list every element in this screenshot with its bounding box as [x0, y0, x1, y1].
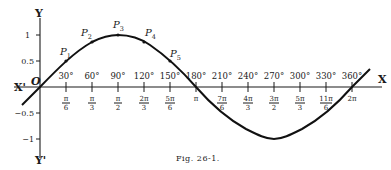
svg-text:30°: 30° [58, 71, 73, 81]
svg-text:3π: 3π [269, 95, 278, 103]
svg-text:7π: 7π [217, 95, 226, 103]
svg-text:2π: 2π [347, 95, 356, 103]
svg-text:2: 2 [272, 104, 276, 112]
p1-label: P1 [59, 46, 71, 60]
svg-text:300°: 300° [290, 71, 310, 81]
degree-labels: 30° 60° 90° 120° 150° 180° 210° 240° 270… [58, 71, 362, 81]
svg-text:π: π [64, 95, 69, 103]
svg-text:2π: 2π [139, 95, 148, 103]
sine-curve-figure: Y Y' X X' O 1 0.5 −0.5 −1 30° 60° 90° 12… [0, 0, 391, 170]
svg-text:6: 6 [64, 104, 69, 112]
svg-text:90°: 90° [110, 71, 125, 81]
y-tick-label: −0.5 [15, 109, 34, 118]
x-axis-label: X [378, 73, 387, 86]
y-tick-label: 0.5 [21, 57, 34, 66]
svg-text:3: 3 [298, 104, 302, 112]
point-p3 [116, 33, 119, 36]
svg-text:150°: 150° [160, 71, 180, 81]
point-p4 [142, 40, 145, 43]
svg-text:330°: 330° [316, 71, 336, 81]
svg-text:210°: 210° [212, 71, 232, 81]
svg-text:60°: 60° [84, 71, 99, 81]
svg-text:2: 2 [116, 104, 120, 112]
point-p5 [168, 59, 171, 62]
svg-text:6: 6 [168, 104, 173, 112]
svg-text:5π: 5π [165, 95, 174, 103]
p2-label: P2 [80, 27, 92, 41]
svg-text:π: π [194, 95, 199, 103]
svg-text:5π: 5π [295, 95, 304, 103]
origin-label: O [31, 75, 41, 88]
y-tick-label: −1 [22, 135, 34, 144]
svg-text:π: π [90, 95, 95, 103]
p3-label: P3 [112, 19, 124, 33]
radian-labels: π 6 π 3 π 2 2π 3 5π 6 π 7π 6 4π 3 3π 2 5… [62, 95, 357, 112]
svg-text:π: π [116, 95, 121, 103]
y-axis-label: Y [34, 7, 43, 20]
svg-text:3: 3 [142, 104, 146, 112]
p4-label: P4 [144, 27, 156, 41]
svg-text:11π: 11π [319, 95, 333, 103]
svg-text:270°: 270° [264, 71, 284, 81]
svg-text:4π: 4π [243, 95, 252, 103]
svg-text:3: 3 [246, 104, 250, 112]
svg-text:120°: 120° [134, 71, 154, 81]
y-neg-axis-label: Y' [34, 154, 46, 167]
svg-text:3: 3 [90, 104, 94, 112]
figure-caption: Fig. 26-1. [176, 154, 220, 163]
x-neg-axis-label: X' [14, 81, 26, 94]
svg-text:240°: 240° [238, 71, 258, 81]
y-tick-label: 1 [25, 31, 30, 40]
